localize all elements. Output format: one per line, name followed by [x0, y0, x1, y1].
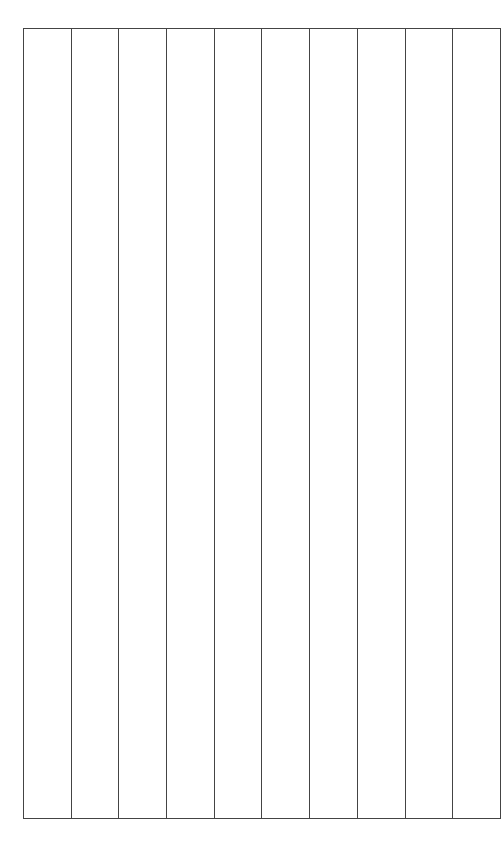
grid-column-8[interactable]	[357, 29, 405, 819]
grid-column-6[interactable]	[262, 29, 310, 819]
grid-column-2[interactable]	[71, 29, 119, 819]
grid-column-9[interactable]	[405, 29, 453, 819]
grid-column-3[interactable]	[119, 29, 167, 819]
grid-column-5[interactable]	[214, 29, 262, 819]
page-viewport	[0, 0, 501, 842]
grid-column-1[interactable]	[24, 29, 72, 819]
grid-column-4[interactable]	[167, 29, 215, 819]
empty-grid-table	[23, 28, 501, 819]
grid-column-7[interactable]	[310, 29, 358, 819]
grid-column-10[interactable]	[453, 29, 501, 819]
grid-row	[24, 29, 501, 819]
